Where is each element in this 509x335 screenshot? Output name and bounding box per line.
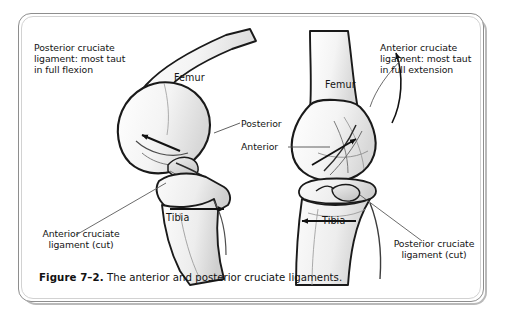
label-anterior-cruciate-cut: Anterior cruciate ligament (cut) xyxy=(22,228,140,250)
label-posterior: Posterior xyxy=(241,118,282,129)
posterior-leader xyxy=(214,123,240,133)
label-left-tibia: Tibia xyxy=(166,212,189,223)
label-posterior-cruciate-taut-flexion: Posterior cruciate ligament: most taut i… xyxy=(34,42,164,76)
figure-panel: Posterior cruciate ligament: most taut i… xyxy=(0,0,509,335)
label-anterior: Anterior xyxy=(241,141,278,152)
label-left-femur: Femur xyxy=(174,72,205,83)
figure-caption: Figure 7–2. The anterior and posterior c… xyxy=(39,272,459,283)
right-femur-shaft xyxy=(310,31,358,109)
right-femoral-condyles xyxy=(292,100,376,181)
left-femoral-condyle xyxy=(118,82,210,173)
figure-caption-number: Figure 7–2. xyxy=(39,272,104,283)
label-posterior-cruciate-cut: Posterior cruciate ligament (cut) xyxy=(373,238,495,260)
label-right-femur: Femur xyxy=(325,79,356,90)
figure-caption-text: The anterior and posterior cruciate liga… xyxy=(107,272,342,283)
right-pcl-leader xyxy=(360,195,422,241)
label-right-tibia: Tibia xyxy=(322,215,345,226)
label-anterior-cruciate-taut-extension: Anterior cruciate ligament: most taut in… xyxy=(380,42,504,76)
